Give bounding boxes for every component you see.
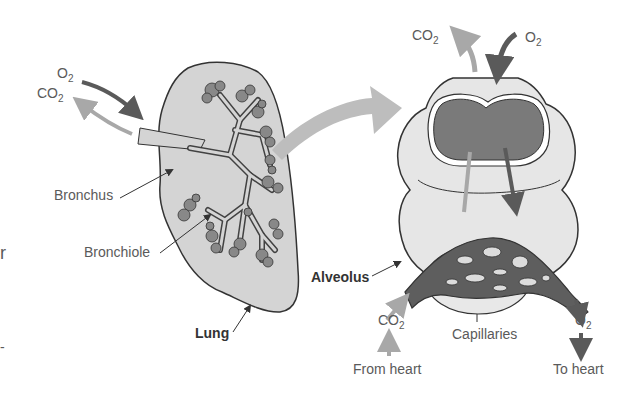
bronchus-o2-label: O2 xyxy=(57,66,73,84)
alveolus-illustration xyxy=(398,78,588,318)
alveolus-co2-out-label: CO2 xyxy=(412,28,439,46)
capillaries-label: Capillaries xyxy=(452,327,517,341)
bronchus-label: Bronchus xyxy=(54,188,113,202)
blood-co2-label: CO2 xyxy=(378,313,405,331)
bronchiole-label: Bronchiole xyxy=(84,245,150,259)
alveolus-top-arrows xyxy=(460,34,516,72)
diagram-canvas xyxy=(0,0,633,406)
bronchus-gas-arrows xyxy=(82,82,135,134)
bronchus-co2-label: CO2 xyxy=(37,86,64,104)
from-heart-label: From heart xyxy=(353,362,421,376)
lung-illustration xyxy=(138,62,298,312)
zoom-arrow xyxy=(272,86,402,160)
lung-label: Lung xyxy=(195,326,229,340)
edge-text-fragment: r xyxy=(0,244,6,262)
edge-dash-fragment: - xyxy=(0,340,5,354)
alveolus-o2-in-label: O2 xyxy=(525,30,541,48)
blood-o2-label: O2 xyxy=(575,313,591,331)
alveolus-label: Alveolus xyxy=(311,270,369,284)
to-heart-label: To heart xyxy=(553,362,604,376)
